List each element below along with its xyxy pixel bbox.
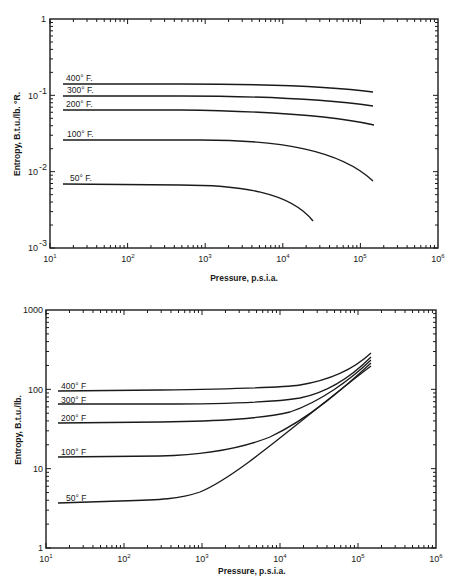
top-x-tick-100: 102 xyxy=(121,253,135,264)
top-x-minor-ticks xyxy=(50,19,434,248)
top-y-tick-0.001: 10 xyxy=(28,243,38,253)
bottom-y-axis-label: Entropy, B.t.u./lb. xyxy=(13,395,23,465)
bottom-x-tick-1000000: 106 xyxy=(429,553,443,564)
bottom-label-200F: 200° F xyxy=(61,413,86,423)
top-label-50F: 50° F. xyxy=(70,173,92,183)
bottom-x-tick-10: 101 xyxy=(39,553,53,564)
bottom-y-tick-100: 100 xyxy=(28,385,43,395)
top-x-tick-100000: 105 xyxy=(353,253,367,264)
bottom-x-tick-100: 102 xyxy=(117,553,131,564)
bottom-x-tick-100000: 105 xyxy=(351,553,365,564)
top-label-300F: 300° F. xyxy=(67,85,94,95)
bottom-curve-300F xyxy=(58,357,371,404)
bottom-x-tick-1000: 103 xyxy=(195,553,209,564)
top-curve-labels: 400° F. 300° F. 200° F. 100° F. 50° F. xyxy=(66,73,94,183)
top-curve-200F xyxy=(63,110,374,125)
bottom-curve-200F xyxy=(58,360,371,423)
bottom-x-tick-labels: 101 102 103 104 105 106 xyxy=(39,553,443,564)
top-y-tick-0.1-exp: -1 xyxy=(39,86,47,96)
bottom-y-tick-1: 1 xyxy=(38,543,43,553)
bottom-y-minor-ticks xyxy=(46,314,436,548)
top-label-400F: 400° F. xyxy=(66,73,93,83)
top-y-tick-0.01-exp: -2 xyxy=(39,162,47,172)
bottom-curve-100F xyxy=(58,363,371,457)
top-y-tick-0.001-exp: -3 xyxy=(39,238,47,248)
top-curve-100F xyxy=(63,140,373,181)
top-x-tick-1000: 103 xyxy=(198,253,212,264)
bottom-curves xyxy=(58,353,371,503)
bottom-chart: 1000 100 10 1 101 102 103 104 105 106 Pr… xyxy=(13,305,443,576)
top-label-100F: 100° F. xyxy=(67,129,94,139)
bottom-y-tick-10: 10 xyxy=(33,464,43,474)
bottom-curve-50F xyxy=(58,366,371,503)
top-x-tick-10: 101 xyxy=(43,253,57,264)
top-x-tick-1000000: 106 xyxy=(431,253,445,264)
bottom-x-minor-ticks xyxy=(46,310,432,548)
top-x-axis-label: Pressure, p.s.i.a. xyxy=(210,273,278,283)
bottom-plot-frame xyxy=(46,310,436,548)
figure: 1 10 -1 10 -2 10 -3 101 102 103 104 105 … xyxy=(0,0,455,585)
top-label-200F: 200° F. xyxy=(66,99,93,109)
top-curves xyxy=(63,84,374,221)
bottom-label-100F: 100° F xyxy=(61,447,86,457)
top-x-tick-10000: 104 xyxy=(276,253,290,264)
top-chart: 1 10 -1 10 -2 10 -3 101 102 103 104 105 … xyxy=(12,14,445,283)
top-y-axis-label: Entropy, B.t.u./lb. °R. xyxy=(12,92,22,176)
bottom-label-300F: 300° F xyxy=(61,395,86,405)
top-curve-400F xyxy=(63,84,373,92)
top-plot-frame xyxy=(50,19,438,248)
top-y-minor-ticks xyxy=(50,23,438,248)
bottom-label-400F: 400° F xyxy=(61,381,86,391)
top-y-tick-0.1: 10 xyxy=(28,91,38,101)
bottom-curve-labels: 400° F 300° F 200° F 100° F 50° F xyxy=(61,381,86,503)
bottom-x-tick-10000: 104 xyxy=(273,553,287,564)
top-x-tick-labels: 101 102 103 104 105 106 xyxy=(43,253,445,264)
top-y-tick-0.01: 10 xyxy=(28,167,38,177)
bottom-label-50F: 50° F xyxy=(66,493,86,503)
top-curve-50F xyxy=(63,184,313,221)
bottom-x-axis-label: Pressure, p.s.i.a. xyxy=(218,566,286,576)
top-curve-300F xyxy=(63,96,373,106)
bottom-curve-400F xyxy=(58,353,371,391)
bottom-y-tick-1000: 1000 xyxy=(23,305,43,315)
top-y-tick-1: 1 xyxy=(41,14,46,24)
